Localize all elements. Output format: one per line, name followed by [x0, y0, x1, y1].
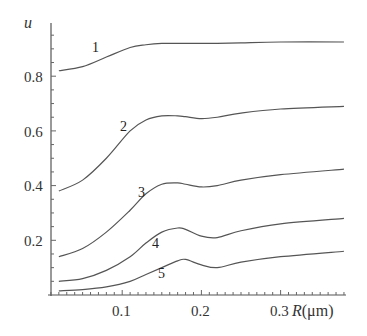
curve-1	[59, 42, 344, 71]
curve-label-1: 1	[92, 40, 99, 55]
y-tick-label: 0.4	[24, 178, 43, 194]
y-tick-label: 0.2	[24, 233, 43, 249]
curve-label-5: 5	[158, 266, 165, 281]
x-tick-label: 0.1	[112, 303, 131, 319]
chart: 0.8 0.6 0.4 0.2 0.1 0.2 0.3 u R(μm) 1 2 …	[0, 0, 367, 336]
y-axis-title: u	[24, 14, 32, 31]
curve-5	[59, 251, 344, 291]
y-tick-label: 0.6	[24, 124, 43, 140]
curve-label-4: 4	[152, 236, 159, 251]
x-tick-label: 0.3	[270, 303, 289, 319]
x-ticks	[51, 290, 344, 295]
curve-3	[59, 169, 344, 257]
y-ticks	[51, 35, 56, 281]
curve-2	[59, 106, 344, 191]
x-tick-label: 0.2	[191, 303, 210, 319]
y-tick-label: 0.8	[24, 69, 43, 85]
x-axis-title: R(μm)	[291, 302, 333, 320]
curve-label-2: 2	[120, 119, 127, 134]
curve-4	[59, 218, 344, 281]
curves	[59, 42, 344, 291]
curve-label-3: 3	[138, 185, 145, 200]
